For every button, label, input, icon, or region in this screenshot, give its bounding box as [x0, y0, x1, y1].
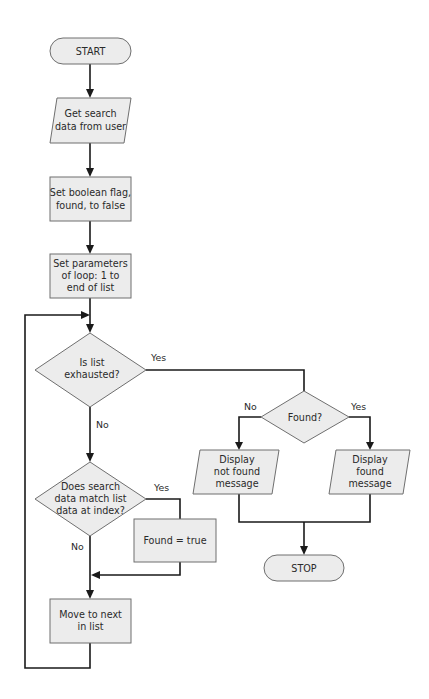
node-text-line: Display: [219, 454, 255, 465]
node-text-line: Does search: [61, 481, 120, 492]
node-text-line: end of list: [67, 282, 115, 293]
node-text-line: Get search: [64, 108, 116, 119]
arrow-head-icon: [86, 89, 94, 98]
node-start: START: [50, 38, 131, 64]
node-text-line: of loop: 1 to: [62, 270, 120, 281]
connector-found-no: [239, 417, 261, 444]
node-set-flag: Set boolean flag, found, to false: [50, 177, 131, 221]
node-not-found-message: Display not found message: [193, 450, 279, 494]
node-stop-text: STOP: [291, 563, 317, 574]
edge-label-exhausted-yes: Yes: [150, 352, 166, 363]
node-text-line: Found = true: [143, 535, 206, 546]
node-text-line: Is list: [80, 357, 105, 368]
edge-label-exhausted-no: No: [96, 419, 109, 430]
node-move-next: Move to next in list: [50, 599, 131, 643]
arrow-head-icon: [366, 442, 374, 450]
arrow-head-icon: [86, 590, 94, 599]
node-stop: STOP: [264, 555, 344, 581]
node-start-text: START: [76, 46, 106, 57]
flowchart-canvas: Yes No Yes No No Yes START Get search da…: [0, 0, 429, 699]
node-get-data: Get search data from user: [50, 98, 131, 143]
arrow-head-icon: [235, 442, 243, 450]
node-text-line: Set boolean flag,: [50, 187, 131, 198]
edge-label-match-yes: Yes: [153, 482, 169, 493]
process-shape: [50, 177, 131, 221]
arrow-head-icon: [86, 245, 94, 254]
node-text-line: in list: [78, 621, 104, 632]
node-text-line: Set parameters: [53, 258, 127, 269]
node-found-message: Display found message: [329, 450, 410, 494]
node-text-line: message: [348, 478, 391, 489]
connector-found-yes: [349, 417, 370, 444]
node-text-line: Move to next: [59, 609, 122, 620]
arrow-head-icon: [81, 311, 90, 319]
node-found-true: Found = true: [134, 519, 216, 562]
node-match: Does search data match list data at inde…: [35, 462, 146, 536]
edge-label-found-no: No: [244, 401, 257, 412]
node-text-line: data from user: [55, 121, 126, 132]
arrow-head-icon: [86, 324, 94, 333]
node-text-line: exhausted?: [64, 369, 119, 380]
node-text-line: message: [215, 478, 258, 489]
edge-label-found-yes: Yes: [350, 401, 366, 412]
node-found-question: Found?: [261, 391, 349, 443]
node-text-line: not found: [214, 466, 260, 477]
node-text-line: Display: [352, 454, 388, 465]
node-text-line: found: [356, 466, 384, 477]
connector-match-yes: [146, 499, 180, 519]
connector-exhausted-yes: [146, 370, 304, 391]
node-text-line: data match list: [54, 493, 126, 504]
node-text-line: data at index?: [56, 505, 125, 516]
arrow-head-icon: [86, 168, 94, 177]
node-set-loop: Set parameters of loop: 1 to end of list: [50, 254, 131, 298]
connector-messages-join: [239, 494, 370, 522]
connector-found-true-merge: [97, 562, 180, 575]
arrow-head-icon: [91, 571, 100, 579]
arrow-head-icon: [300, 546, 308, 555]
arrow-head-icon: [86, 453, 94, 462]
node-text-line: Found?: [288, 412, 322, 423]
edge-label-match-no: No: [71, 541, 84, 552]
node-exhausted: Is list exhausted?: [35, 333, 146, 407]
node-text-line: found, to false: [56, 200, 125, 211]
